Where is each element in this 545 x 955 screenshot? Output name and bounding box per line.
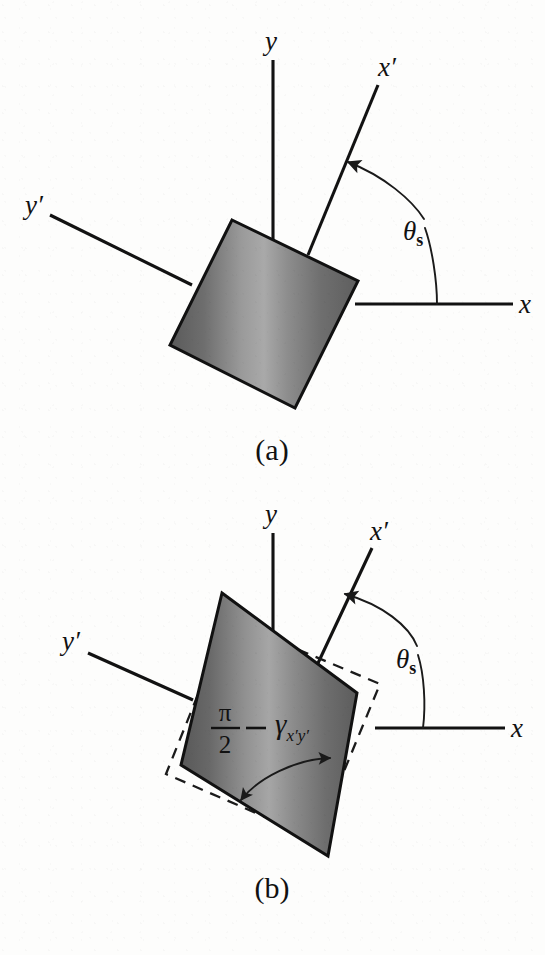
panel-b: θs π 2 γx′y′ y x′ y′ x (b): [0, 478, 545, 955]
axis-yprime-line-a: [50, 215, 192, 285]
theta-symbol-a: θ: [403, 216, 416, 246]
theta-subscript-a: s: [416, 230, 423, 250]
theta-s-label-b: θs: [396, 644, 416, 678]
axis-label-x-a: x: [518, 289, 531, 319]
theta-arc-upper-b: [345, 594, 417, 646]
theta-arc-upper-a: [348, 162, 424, 219]
axis-label-yprime-b: y′: [59, 626, 81, 656]
theta-symbol-b: θ: [396, 644, 409, 674]
sheared-element-b: [181, 593, 357, 856]
axis-label-xprime-a: x′: [377, 52, 397, 82]
axis-label-yprime-a: y′: [22, 190, 44, 220]
figure-page: θs y x′ y′ x (a): [0, 0, 545, 955]
panel-caption-a: (a): [255, 433, 288, 467]
axis-label-y-a: y: [262, 26, 277, 56]
axis-label-x-b: x: [510, 713, 523, 743]
panel-a: θs y x′ y′ x (a): [0, 0, 545, 478]
axis-label-xprime-b: x′: [369, 516, 389, 546]
panel-caption-b: (b): [255, 871, 290, 905]
theta-subscript-b: s: [409, 658, 416, 678]
shear-two-denominator-b: 2: [219, 731, 232, 758]
square-element-a: [170, 220, 358, 408]
shear-pi-numerator-b: π: [219, 699, 232, 726]
theta-arc-lower-b: [418, 655, 424, 728]
theta-arc-lower-a: [425, 228, 437, 304]
axis-label-y-b: y: [262, 499, 277, 529]
axis-yprime-line-b: [88, 653, 193, 700]
gamma-subscript-b: x′y′: [285, 726, 309, 745]
theta-s-label-a: θs: [403, 216, 423, 250]
